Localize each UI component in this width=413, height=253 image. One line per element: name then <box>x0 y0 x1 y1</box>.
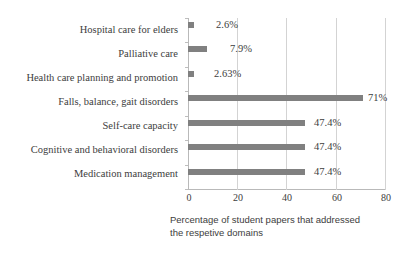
value-label-falls-balance-gait-disorders: 71% <box>368 92 387 103</box>
plot-area: 2.6% 7.9% 2.63% 71% 47.4% 47.4% 47.4% <box>188 18 385 190</box>
value-label-health-care-planning-and-promotion: 2.63% <box>214 68 241 79</box>
category-label-palliative-care: Palliative care <box>118 48 178 60</box>
bar-self-care-capacity <box>188 120 305 126</box>
gridline-80 <box>385 18 386 190</box>
category-label-falls-balance-gait-disorders: Falls, balance, gait disorders <box>58 96 178 108</box>
gridline-60 <box>336 18 337 190</box>
bar-palliative-care <box>188 46 207 52</box>
value-label-self-care-capacity: 47.4% <box>314 117 341 128</box>
category-label-hospital-care-for-elders: Hospital care for elders <box>80 24 178 36</box>
x-tick-label-40: 40 <box>282 192 292 203</box>
x-tick-label-80: 80 <box>381 192 391 203</box>
value-label-medication-management: 47.4% <box>314 166 341 177</box>
category-label-self-care-capacity: Self-care capacity <box>103 120 179 132</box>
bar-falls-balance-gait-disorders <box>188 95 363 101</box>
x-axis-title-line-1: Percentage of student papers that addres… <box>170 213 410 226</box>
bar-health-care-planning-and-promotion <box>188 71 194 77</box>
x-tick-label-20: 20 <box>233 192 243 203</box>
value-label-cognitive-and-behavioral-disorders: 47.4% <box>314 141 341 152</box>
gridline-40 <box>286 18 287 190</box>
x-axis-title-line-2: the respetive domains <box>170 226 410 239</box>
bar-chart: Hospital care for elders Palliative care… <box>0 0 413 253</box>
x-axis-line <box>188 189 386 190</box>
category-label-medication-management: Medication management <box>74 168 178 180</box>
category-axis-labels: Hospital care for elders Palliative care… <box>0 18 182 190</box>
category-label-health-care-planning-and-promotion: Health care planning and promotion <box>26 72 178 84</box>
bar-hospital-care-for-elders <box>188 22 194 28</box>
value-label-palliative-care: 7.9% <box>230 43 252 54</box>
x-axis-tick-labels: 0 20 40 60 80 <box>188 192 388 206</box>
x-tick-label-0: 0 <box>187 192 192 203</box>
x-tick-label-60: 60 <box>332 192 342 203</box>
category-label-cognitive-and-behavioral-disorders: Cognitive and behavioral disorders <box>31 144 178 156</box>
value-label-hospital-care-for-elders: 2.6% <box>216 19 238 30</box>
y-axis-line <box>188 18 189 190</box>
bar-medication-management <box>188 169 305 175</box>
bar-cognitive-and-behavioral-disorders <box>188 144 305 150</box>
x-axis-title: Percentage of student papers that addres… <box>170 213 410 239</box>
